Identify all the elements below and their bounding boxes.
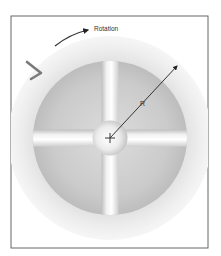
radius-label: R	[140, 100, 145, 107]
rotor-diagram: R Rotation	[0, 0, 221, 256]
rotation-label: Rotation	[94, 25, 119, 32]
